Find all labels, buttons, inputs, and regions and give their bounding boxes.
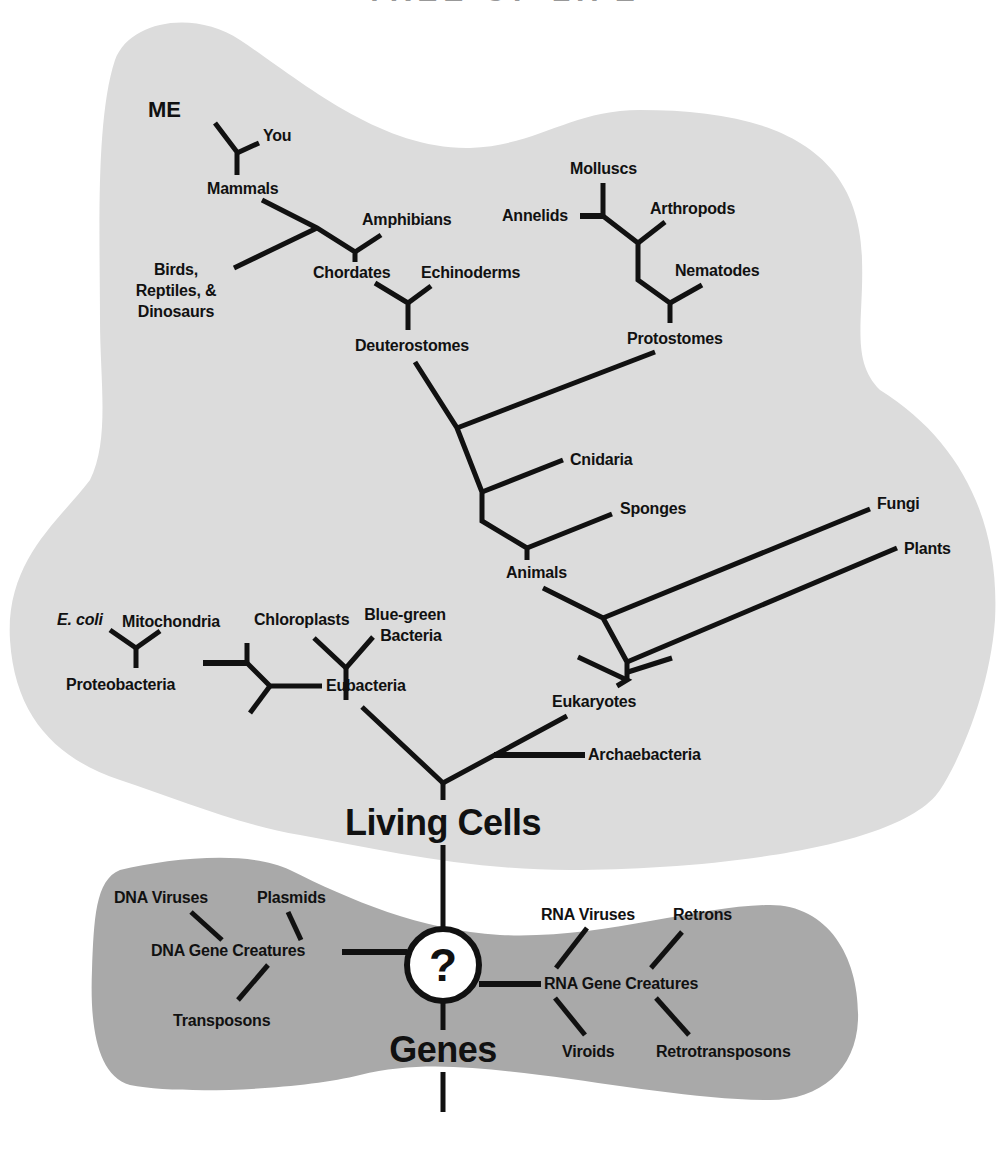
diagram-canvas [0,0,1006,1158]
label-blue-green: Blue-green [364,606,446,624]
label-sponges: Sponges [620,500,686,518]
label-mammals: Mammals [207,180,279,198]
label-dna-viruses: DNA Viruses [114,889,208,907]
label-amphibians: Amphibians [362,211,452,229]
label-me: ME [148,98,181,122]
living-cells-region [10,23,996,870]
label-eubacteria: Eubacteria [326,677,406,695]
tree-of-life-diagram: TREE OF LIFE [0,0,1006,1158]
label-arthropods: Arthropods [650,200,735,218]
label-living-cells: Living Cells [345,803,541,843]
label-viroids: Viroids [562,1043,615,1061]
label-dna-gene-creatures: DNA Gene Creatures [151,942,305,960]
label-mitochondria: Mitochondria [122,613,220,631]
label-rna-viruses: RNA Viruses [541,906,635,924]
label-eukaryotes: Eukaryotes [552,693,636,711]
label-protostomes: Protostomes [627,330,723,348]
label-fungi: Fungi [877,495,920,513]
label-transposons: Transposons [173,1012,270,1030]
question-mark-icon: ? [429,942,457,988]
label-dinosaurs: Dinosaurs [138,303,214,321]
label-archaebacteria: Archaebacteria [588,746,701,764]
label-chloroplasts: Chloroplasts [254,611,349,629]
label-you: You [263,127,291,145]
label-proteobacteria: Proteobacteria [66,676,175,694]
label-animals: Animals [506,564,567,582]
label-cnidaria: Cnidaria [570,451,632,469]
label-reptiles: Reptiles, & [136,282,217,300]
label-retrotransposons: Retrotransposons [656,1043,791,1061]
label-deuterostomes: Deuterostomes [355,337,469,355]
label-retrons: Retrons [673,906,732,924]
label-chordates: Chordates [313,264,390,282]
label-ecoli: E. coli [57,611,103,629]
label-bacteria: Bacteria [380,627,442,645]
label-genes: Genes [389,1030,497,1070]
label-molluscs: Molluscs [570,160,637,178]
label-plasmids: Plasmids [257,889,326,907]
label-rna-gene-creatures: RNA Gene Creatures [544,975,698,993]
label-birds: Birds, [154,261,198,279]
label-annelids: Annelids [502,207,568,225]
label-plants: Plants [904,540,951,558]
label-echinoderms: Echinoderms [421,264,520,282]
label-nematodes: Nematodes [675,262,759,280]
